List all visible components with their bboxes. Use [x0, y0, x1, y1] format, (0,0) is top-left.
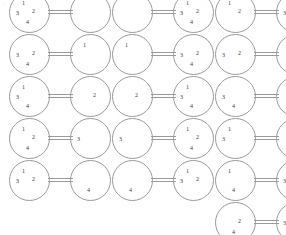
pip-3: 3	[119, 136, 122, 142]
connector-r1c2	[151, 10, 176, 14]
node-left-r3c1[interactable]: 134	[9, 76, 50, 117]
pip-3: 3	[222, 94, 225, 100]
domino-r4c1[interactable]: 1243	[9, 118, 112, 161]
node-left-r5c1[interactable]: 123	[9, 160, 50, 201]
pip-3: 3	[16, 94, 19, 100]
pip-3: 3	[180, 178, 183, 184]
pip-1: 1	[228, 168, 231, 174]
pip-1: 1	[22, 126, 25, 132]
pip-3: 3	[283, 178, 286, 184]
pip-2: 2	[32, 134, 35, 140]
pip-2: 2	[238, 218, 241, 224]
node-right-r1c2[interactable]: 1234	[173, 0, 214, 33]
connector-r4c1	[48, 136, 73, 140]
domino-r3c2[interactable]: 2134	[112, 76, 215, 119]
domino-r2c1[interactable]: 2341	[9, 34, 112, 77]
node-left-r3c2[interactable]: 2	[112, 76, 153, 117]
pip-3: 3	[16, 10, 19, 16]
node-left-r1c3[interactable]: 12	[215, 0, 256, 33]
pip-4: 4	[26, 145, 29, 151]
connector-r5c2	[151, 178, 176, 182]
pip-1: 1	[22, 84, 25, 90]
pip-1: 1	[22, 0, 25, 6]
connector-r1c3	[254, 10, 279, 14]
connector-r5c3	[254, 178, 279, 182]
connector-r6c3	[254, 220, 279, 224]
domino-r3c1[interactable]: 1342	[9, 76, 112, 119]
node-left-r6c3[interactable]: 24	[215, 202, 256, 235]
connector-r3c2	[151, 94, 176, 98]
pip-1: 1	[125, 42, 128, 48]
node-left-r5c3[interactable]: 14	[215, 160, 256, 201]
node-right-r3c2[interactable]: 134	[173, 76, 214, 117]
pip-3: 3	[283, 10, 286, 16]
domino-r6c3[interactable]: 2413	[215, 202, 286, 235]
pip-4: 4	[26, 103, 29, 109]
node-right-r4c1[interactable]: 3	[70, 118, 111, 159]
node-right-r1c1[interactable]	[70, 0, 111, 33]
pip-2: 2	[93, 92, 96, 98]
domino-r5c1[interactable]: 1234	[9, 160, 112, 203]
pip-3: 3	[180, 94, 183, 100]
node-right-r2c2[interactable]: 234	[173, 34, 214, 75]
pip-4: 4	[190, 145, 193, 151]
domino-r1c2[interactable]: 1234	[112, 0, 215, 35]
pip-2: 2	[32, 50, 35, 56]
pip-2: 2	[196, 176, 199, 182]
connector-r5c1	[48, 178, 73, 182]
node-left-r4c2[interactable]: 3	[112, 118, 153, 159]
node-left-r2c2[interactable]: 1	[112, 34, 153, 75]
node-right-r4c2[interactable]: 124	[173, 118, 214, 159]
pip-4: 4	[26, 61, 29, 67]
node-right-r5c1[interactable]: 4	[70, 160, 111, 201]
pip-1: 1	[228, 0, 231, 6]
pip-3: 3	[16, 52, 19, 58]
node-right-r1c3[interactable]: 34	[276, 0, 286, 33]
domino-r4c3[interactable]: 1324	[215, 118, 286, 161]
pip-2: 2	[32, 176, 35, 182]
pip-2: 2	[238, 50, 241, 56]
pip-3: 3	[222, 52, 225, 58]
pip-1: 1	[228, 126, 231, 132]
pip-4: 4	[26, 19, 29, 25]
pip-2: 2	[196, 134, 199, 140]
node-right-r5c2[interactable]: 123	[173, 160, 214, 201]
domino-r3c3[interactable]: 3412	[215, 76, 286, 119]
pip-2: 2	[238, 8, 241, 14]
node-left-r1c1[interactable]: 1234	[9, 0, 50, 33]
pip-4: 4	[232, 187, 235, 193]
pip-2: 2	[196, 50, 199, 56]
node-right-r2c1[interactable]: 1	[70, 34, 111, 75]
node-left-r1c2[interactable]	[112, 0, 153, 33]
connector-r3c1	[48, 94, 73, 98]
domino-r4c2[interactable]: 3124	[112, 118, 215, 161]
domino-r2c3[interactable]: 2314	[215, 34, 286, 77]
node-left-r4c3[interactable]: 13	[215, 118, 256, 159]
pip-3: 3	[283, 220, 286, 226]
domino-r1c3[interactable]: 1234	[215, 0, 286, 35]
node-right-r3c1[interactable]: 2	[70, 76, 111, 117]
pip-1: 1	[186, 168, 189, 174]
domino-r2c2[interactable]: 1234	[112, 34, 215, 77]
pip-1: 1	[83, 42, 86, 48]
connector-r4c3	[254, 136, 279, 140]
pip-3: 3	[222, 136, 225, 142]
pip-3: 3	[180, 52, 183, 58]
node-left-r4c1[interactable]: 124	[9, 118, 50, 159]
domino-r5c3[interactable]: 1423	[215, 160, 286, 203]
domino-r5c2[interactable]: 4123	[112, 160, 215, 203]
pip-4: 4	[232, 229, 235, 235]
pip-4: 4	[87, 187, 90, 193]
pip-4: 4	[190, 61, 193, 67]
node-left-r2c3[interactable]: 23	[215, 34, 256, 75]
pip-1: 1	[22, 168, 25, 174]
domino-r1c1[interactable]: 1234	[9, 0, 112, 35]
node-left-r5c2[interactable]: 4	[112, 160, 153, 201]
pip-4: 4	[129, 187, 132, 193]
node-right-r6c3[interactable]: 13	[276, 202, 286, 235]
connector-r2c3	[254, 52, 279, 56]
connector-r3c3	[254, 94, 279, 98]
domino-grid-canvas: + 12341234123423411234231413422134341212…	[0, 0, 286, 235]
node-left-r2c1[interactable]: 234	[9, 34, 50, 75]
node-left-r3c3[interactable]: 34	[215, 76, 256, 117]
